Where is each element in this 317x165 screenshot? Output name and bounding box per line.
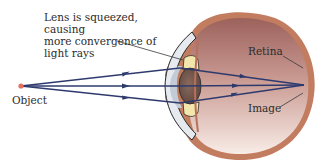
arrowhead-icon: [122, 84, 130, 89]
object-point: [18, 83, 23, 88]
object-label: Object: [12, 94, 47, 106]
image-label: Image: [248, 102, 281, 114]
ray-middle-inside: [180, 85, 304, 86]
retina-label: Retina: [248, 45, 283, 57]
caption-line-2: more convergence of: [44, 35, 174, 47]
arrowhead-icon: [122, 96, 130, 100]
caption-line-3: light rays: [44, 47, 174, 59]
ray-upper-outside: [21, 68, 180, 86]
caption-line-1: Lens is squeezed, causing: [44, 11, 174, 35]
lens-caption: Lens is squeezed, causing more convergen…: [44, 11, 174, 59]
